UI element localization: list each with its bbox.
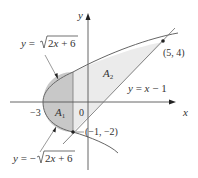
y-axis-label: y	[77, 9, 83, 21]
y-axis-arrow-icon	[86, 13, 91, 20]
line-label: y = x − 1	[127, 82, 167, 94]
diagram-canvas: y x 0 −3 y = 2x + 6 y = − 2x + 6 y = x −…	[0, 0, 198, 178]
point-neg1-neg2	[71, 130, 75, 134]
upper-curve-label: y =	[20, 37, 35, 49]
x-axis-arrow-icon	[169, 100, 176, 105]
origin-label: 0	[79, 107, 84, 118]
lower-curve-label: y = −	[12, 152, 36, 164]
point-5-4	[161, 39, 165, 43]
upper-curve-radicand: 2x + 6	[48, 37, 76, 49]
lower-curve-radicand: 2x + 6	[45, 152, 73, 164]
point-5-4-label: (5, 4)	[163, 47, 185, 59]
point-neg1-neg2-label: (−1, −2)	[85, 126, 118, 138]
x-tick-label-neg3: −3	[30, 107, 41, 118]
x-axis-label: x	[182, 106, 188, 118]
